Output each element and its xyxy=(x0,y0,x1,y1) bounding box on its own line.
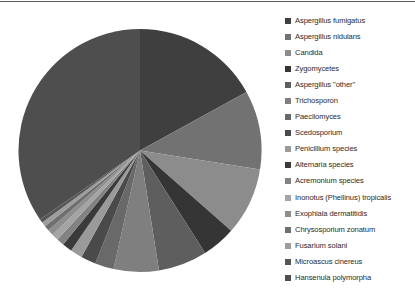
legend-item-label: Alternaria species xyxy=(295,160,354,169)
legend-item[interactable]: Exophiala dermatitidis xyxy=(285,205,415,221)
legend-item-label: Inonotus (Phellinus) tropicalis xyxy=(295,193,391,202)
legend-item-label: Candida xyxy=(295,48,323,57)
legend-item-label: Aspergillus "other" xyxy=(295,80,355,89)
legend-item-label: Microascus cinereus xyxy=(295,257,362,266)
legend-swatch-icon xyxy=(285,259,291,265)
legend-item[interactable]: Aspergillus fumigatus xyxy=(285,12,415,28)
legend-item[interactable]: Fusarium solani xyxy=(285,237,415,253)
legend-item[interactable]: Acremonium species xyxy=(285,173,415,189)
top-divider-rule xyxy=(0,1,415,2)
legend-swatch-icon xyxy=(285,275,291,281)
legend-item[interactable]: Paecilomyces xyxy=(285,109,415,125)
legend-swatch-icon xyxy=(285,178,291,184)
pie-slice-group: Aspergillus fumigatusAspergillus nidulan… xyxy=(19,29,262,272)
legend-swatch-icon xyxy=(285,114,291,120)
legend-item-label: Penicillium species xyxy=(295,144,357,153)
legend-item-label: Paecilomyces xyxy=(295,112,341,121)
pie-chart-figure: Aspergillus fumigatusAspergillus nidulan… xyxy=(0,0,415,303)
legend-item-label: Fusarium solani xyxy=(295,241,347,250)
legend-item-label: Aspergillus fumigatus xyxy=(295,16,365,25)
chart-legend: Aspergillus fumigatusAspergillus nidulan… xyxy=(285,12,415,297)
legend-swatch-icon xyxy=(285,195,291,201)
legend-item[interactable]: Inonotus (Phellinus) tropicalis xyxy=(285,189,415,205)
legend-item-label: Trichosporon xyxy=(295,96,338,105)
legend-swatch-icon xyxy=(285,146,291,152)
legend-item[interactable]: Aspergillus "other" xyxy=(285,76,415,92)
legend-swatch-icon xyxy=(285,211,291,217)
legend-item-label: Zygomycetes xyxy=(295,64,339,73)
legend-swatch-icon xyxy=(285,82,291,88)
legend-item-label: Scedosporium xyxy=(295,128,342,137)
legend-item-label: Exophiala dermatitidis xyxy=(295,209,367,218)
legend-swatch-icon xyxy=(285,227,291,233)
legend-item[interactable]: Hansenula polymorpha xyxy=(285,270,415,286)
legend-swatch-icon xyxy=(285,130,291,136)
legend-item-label: Acremonium species xyxy=(295,176,364,185)
legend-item[interactable]: Trichosporon xyxy=(285,92,415,108)
legend-item[interactable]: Chrysosporium zonatum xyxy=(285,221,415,237)
legend-item[interactable]: Microascus cinereus xyxy=(285,253,415,269)
legend-item[interactable]: Alternaria species xyxy=(285,157,415,173)
pie-chart-plot-area: Aspergillus fumigatusAspergillus nidulan… xyxy=(18,28,262,274)
legend-item-label: Chrysosporium zonatum xyxy=(295,225,375,234)
legend-swatch-icon xyxy=(285,162,291,168)
legend-swatch-icon xyxy=(285,98,291,104)
legend-swatch-icon xyxy=(285,243,291,249)
legend-swatch-icon xyxy=(285,18,291,24)
legend-item[interactable]: Zygomycetes xyxy=(285,60,415,76)
legend-item[interactable]: Scedosporium xyxy=(285,125,415,141)
legend-swatch-icon xyxy=(285,34,291,40)
legend-swatch-icon xyxy=(285,50,291,56)
legend-item-label: Hansenula polymorpha xyxy=(295,273,371,282)
legend-item[interactable]: Penicillium species xyxy=(285,141,415,157)
legend-item-label: Aspergillus nidulans xyxy=(295,32,361,41)
legend-swatch-icon xyxy=(285,66,291,72)
pie-chart-svg: Aspergillus fumigatusAspergillus nidulan… xyxy=(18,28,262,274)
legend-item[interactable]: Candida xyxy=(285,44,415,60)
legend-item[interactable]: Aspergillus nidulans xyxy=(285,28,415,44)
